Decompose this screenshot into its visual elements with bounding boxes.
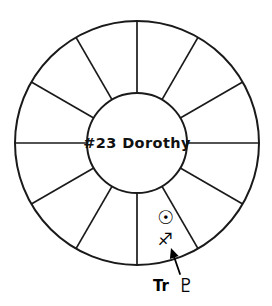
wheel-svg: #23 Dorothy ☉ ♐ Tr ♇ [0,0,272,306]
transit-prefix-label: Tr [153,277,170,295]
sagittarius-icon: ♐ [157,229,172,249]
sun-icon: ☉ [157,206,174,228]
astrology-wheel-diagram: #23 Dorothy ☉ ♐ Tr ♇ [0,0,272,306]
pluto-icon: ♇ [177,274,194,296]
center-label: #23 Dorothy [83,135,191,151]
